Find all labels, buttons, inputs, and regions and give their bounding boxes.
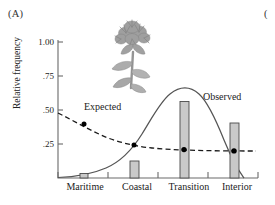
plot-area — [0, 0, 275, 205]
bar-transition — [180, 102, 189, 179]
expected-marker-coastal — [132, 143, 137, 148]
expected-marker-maritime — [82, 122, 87, 127]
expected-marker-transition — [181, 147, 186, 152]
bar-maritime — [80, 174, 88, 179]
flowering-plant-illustration — [112, 20, 150, 93]
observed-bars — [80, 102, 239, 179]
observed-curve — [58, 88, 244, 178]
bar-coastal — [130, 161, 139, 178]
y-axis-ticks — [58, 42, 63, 144]
figure-panel-a: (A) ( Relative frequency 1.00 .75 .50 .2… — [0, 0, 275, 205]
expected-marker-interior — [231, 148, 236, 153]
